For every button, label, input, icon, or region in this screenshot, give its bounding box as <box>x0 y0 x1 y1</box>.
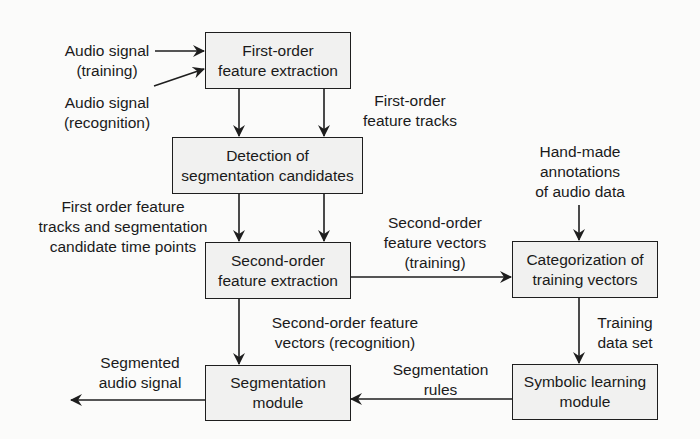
label-line: candidate time points <box>28 237 218 257</box>
box-line: training vectors <box>532 270 637 290</box>
label-line: Segmented <box>80 353 200 373</box>
label-line: annotations <box>515 162 645 182</box>
label-second-order-feature-vectors-training: Second-order feature vectors (training) <box>370 213 500 273</box>
label-training-data-set: Training data set <box>585 313 665 353</box>
symbolic-learning-module-box: Symbolic learning module <box>512 364 658 420</box>
label-line: Audio signal <box>52 93 162 113</box>
label-line: of audio data <box>515 182 645 202</box>
label-segmented-audio-signal: Segmented audio signal <box>80 353 200 393</box>
categorization-of-training-vectors-box: Categorization of training vectors <box>512 241 658 298</box>
box-line: feature extraction <box>218 61 338 81</box>
box-line: Categorization of <box>526 250 643 270</box>
second-order-feature-extraction-box: Second-order feature extraction <box>205 242 351 299</box>
label-line: Second-order feature <box>260 313 430 333</box>
label-line: Audio signal <box>52 41 162 61</box>
detection-of-segmentation-candidates-box: Detection of segmentation candidates <box>172 137 363 194</box>
box-line: Detection of <box>226 146 309 166</box>
label-line: First order feature <box>28 197 218 217</box>
box-line: Segmentation <box>230 373 326 393</box>
label-line: vectors (recognition) <box>260 333 430 353</box>
label-line: First-order <box>350 91 470 111</box>
box-line: segmentation candidates <box>181 166 353 186</box>
box-line: Second-order <box>231 251 325 271</box>
label-line: feature vectors <box>370 233 500 253</box>
label-line: (training) <box>370 253 500 273</box>
label-line: Segmentation <box>383 360 498 380</box>
label-line: (training) <box>52 61 162 81</box>
label-line: rules <box>383 380 498 400</box>
label-audio-signal-recognition: Audio signal (recognition) <box>52 93 162 133</box>
label-line: audio signal <box>80 373 200 393</box>
label-line: tracks and segmentation <box>28 217 218 237</box>
label-first-order-feature-tracks: First-order feature tracks <box>350 91 470 131</box>
label-segmentation-rules: Segmentation rules <box>383 360 498 400</box>
label-line: Training <box>585 313 665 333</box>
segmentation-module-box: Segmentation module <box>205 365 351 421</box>
box-line: feature extraction <box>218 271 338 291</box>
label-audio-signal-training: Audio signal (training) <box>52 41 162 81</box>
box-line: module <box>253 393 304 413</box>
label-hand-made-annotations: Hand-made annotations of audio data <box>515 142 645 202</box>
box-line: module <box>560 392 611 412</box>
label-line: (recognition) <box>52 113 162 133</box>
box-line: First-order <box>242 41 313 61</box>
first-order-feature-extraction-box: First-order feature extraction <box>205 32 351 89</box>
label-line: Hand-made <box>515 142 645 162</box>
label-first-order-tracks-and-candidates: First order feature tracks and segmentat… <box>28 197 218 257</box>
label-line: feature tracks <box>350 111 470 131</box>
box-line: Symbolic learning <box>524 372 646 392</box>
label-line: Second-order <box>370 213 500 233</box>
label-line: data set <box>585 333 665 353</box>
label-second-order-feature-vectors-recognition: Second-order feature vectors (recognitio… <box>260 313 430 353</box>
